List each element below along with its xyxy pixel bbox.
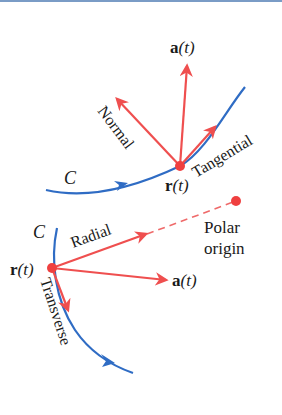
acceleration-vector-lower: [52, 268, 166, 280]
acceleration-vector-upper: [180, 66, 187, 166]
tangential-label: Tangential: [189, 131, 256, 181]
polar-origin-label-line2: origin: [204, 239, 245, 258]
diagram-svg: a(t) Normal Tangential C r(t): [0, 0, 282, 415]
point-label-lower: r(t): [10, 260, 34, 279]
acceleration-label-upper: a(t): [170, 38, 195, 57]
point-label-upper: r(t): [165, 176, 189, 195]
upper-diagram: a(t) Normal Tangential C r(t): [46, 38, 256, 195]
point-r-upper: [175, 161, 185, 171]
polar-origin-point: [231, 196, 241, 206]
polar-origin-label-line1: Polar: [204, 218, 240, 237]
lower-diagram: C r(t) Radial Transverse a(t) Polar orig…: [10, 196, 245, 373]
point-r-lower: [47, 263, 57, 273]
curve-label-upper: C: [64, 168, 77, 188]
transverse-label: Transverse: [37, 276, 75, 347]
diagram-canvas: a(t) Normal Tangential C r(t): [0, 0, 282, 415]
normal-label: Normal: [95, 103, 138, 153]
curve-c-lower: [54, 228, 133, 373]
radial-label: Radial: [68, 220, 114, 250]
acceleration-label-lower: a(t): [172, 271, 197, 290]
curve-label-lower: C: [33, 222, 46, 242]
